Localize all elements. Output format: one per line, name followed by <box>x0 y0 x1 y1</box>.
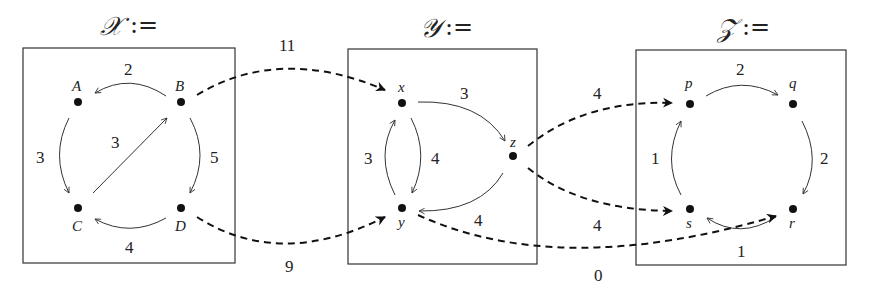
weight-q-r: 2 <box>820 149 829 168</box>
edge-A-C <box>60 118 70 193</box>
map-y-r-weight: 0 <box>594 266 603 285</box>
edge-r-s <box>707 217 776 229</box>
weight-z-y: 4 <box>474 211 483 230</box>
node-B <box>177 98 185 106</box>
node-y-label: y <box>396 214 405 230</box>
weight-B-D: 5 <box>210 148 219 167</box>
node-y <box>398 204 406 212</box>
node-z-label: z <box>509 134 516 150</box>
node-A-label: A <box>71 78 82 94</box>
category-z-assign: := <box>742 13 770 41</box>
map-B-x <box>197 69 385 95</box>
category-y: 𝒴 := x z y 3 3 4 4 <box>348 13 537 264</box>
category-x: 𝒳 := A B C D 2 3 3 5 4 <box>23 11 235 263</box>
node-D-label: D <box>174 218 186 234</box>
node-x <box>398 99 406 107</box>
node-s-label: s <box>686 215 692 231</box>
weight-y-x: 3 <box>364 149 373 168</box>
category-z-box <box>636 50 846 265</box>
map-D-y <box>197 217 385 244</box>
node-z <box>509 152 517 160</box>
map-B-x-weight: 11 <box>279 36 295 55</box>
edge-x-y <box>411 118 421 193</box>
node-C-label: C <box>72 218 83 234</box>
weight-x-z: 3 <box>460 84 469 103</box>
edge-q-r <box>802 121 812 194</box>
node-p <box>686 100 694 108</box>
map-z-p <box>528 103 672 146</box>
weight-s-p: 1 <box>651 149 660 168</box>
category-y-assign: := <box>445 13 473 41</box>
edge-D-C <box>95 218 166 228</box>
weight-r-s: 1 <box>737 242 746 261</box>
category-x-title: 𝒳 <box>100 11 130 41</box>
category-x-box <box>23 48 235 263</box>
weight-x-y: 4 <box>431 149 440 168</box>
category-diagram: 𝒳 := A B C D 2 3 3 5 4 𝒴 := x z y <box>0 0 871 291</box>
weight-B-A: 2 <box>124 60 133 79</box>
weight-A-C: 3 <box>36 148 45 167</box>
node-r <box>789 205 797 213</box>
category-z: 𝒵 := p q r s 2 2 1 1 <box>636 13 846 265</box>
node-s <box>686 205 694 213</box>
map-z-s-weight: 4 <box>593 216 602 235</box>
node-x-label: x <box>397 79 405 95</box>
node-q-label: q <box>789 75 797 91</box>
node-A <box>74 98 82 106</box>
map-z-p-weight: 4 <box>593 84 602 103</box>
node-q <box>789 100 797 108</box>
map-z-s <box>528 168 672 211</box>
edge-C-B <box>93 118 167 193</box>
category-x-assign: := <box>130 11 158 39</box>
functor-mappings: 11 9 4 4 0 <box>197 36 776 285</box>
category-y-box <box>348 49 537 264</box>
edge-B-A <box>95 83 166 96</box>
edge-s-p <box>672 121 682 195</box>
weight-C-B: 3 <box>111 133 120 152</box>
node-p-label: p <box>684 75 693 91</box>
weight-p-q: 2 <box>736 60 745 79</box>
node-r-label: r <box>789 215 795 231</box>
node-D <box>177 204 185 212</box>
category-z-title: 𝒵 <box>716 13 743 43</box>
weight-D-C: 4 <box>125 238 134 257</box>
edge-p-q <box>706 85 778 96</box>
edge-B-D <box>190 118 200 193</box>
category-y-title: 𝒴 <box>420 13 447 43</box>
node-C <box>74 204 82 212</box>
edge-y-x <box>385 120 395 195</box>
edge-z-y <box>419 173 503 211</box>
edge-x-z <box>418 102 505 141</box>
node-B-label: B <box>175 78 184 94</box>
map-D-y-weight: 9 <box>285 257 294 276</box>
